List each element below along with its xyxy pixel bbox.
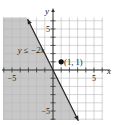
x-tick-label: 5 [92, 74, 96, 83]
point-label: (1, 1) [64, 57, 83, 67]
inequality-label: y ≤ −2x [17, 45, 45, 55]
y-tick-label: 5 [46, 25, 50, 34]
inequality-graph: −555−5 x y y ≤ −2x(1, 1) [0, 0, 119, 125]
x-tick-label: −5 [8, 74, 17, 83]
test-point [59, 59, 64, 64]
shaded-region [3, 18, 78, 121]
y-tick-label: −5 [41, 107, 50, 116]
x-axis-label: x [106, 66, 111, 76]
y-axis-label: y [44, 6, 49, 16]
y-axis-arrow-icon [51, 8, 55, 12]
